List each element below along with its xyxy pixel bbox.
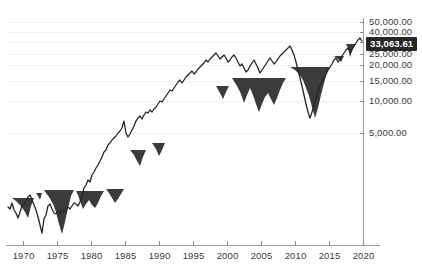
y-tick-label-5000: 5,000.00 xyxy=(369,128,407,138)
current-value-tooltip[interactable]: 33,063.61 xyxy=(366,37,417,51)
x-tick-label-1995: 1995 xyxy=(183,250,205,261)
x-tick-label-2020: 2020 xyxy=(353,250,375,261)
x-tick-label-1970: 1970 xyxy=(13,250,35,261)
x-tick-label-1985: 1985 xyxy=(115,250,137,261)
drawdown-fill xyxy=(11,44,356,234)
x-tick-label-1975: 1975 xyxy=(47,250,69,261)
y-tick-label-15000: 15,000.00 xyxy=(369,76,412,86)
chart-plot-area xyxy=(0,0,422,273)
x-tick-label-1980: 1980 xyxy=(81,250,103,261)
y-tick-label-10000: 10,000.00 xyxy=(369,96,412,106)
stock-index-chart: 50,000.00 40,000.00 25,000.00 20,000.00 … xyxy=(0,0,422,273)
x-tick-label-2010: 2010 xyxy=(285,250,307,261)
x-tick-label-1990: 1990 xyxy=(149,250,171,261)
y-tick-label-20000: 20,000.00 xyxy=(369,60,412,70)
x-tick-label-2000: 2000 xyxy=(217,250,239,261)
x-tick-label-2015: 2015 xyxy=(319,250,341,261)
y-tick-label-40000: 40,000.00 xyxy=(369,27,412,37)
x-tick-label-2005: 2005 xyxy=(251,250,273,261)
